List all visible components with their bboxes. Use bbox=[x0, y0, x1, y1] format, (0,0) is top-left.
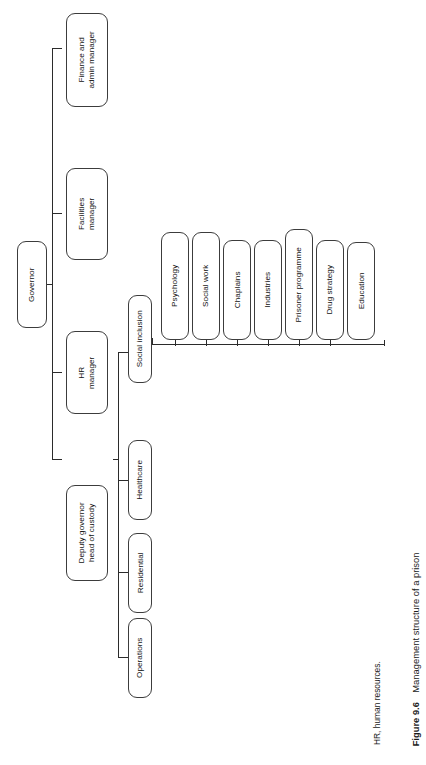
node-drug-strategy-label: Drug strategy bbox=[325, 265, 335, 315]
edge-si-drug-strategy bbox=[330, 340, 331, 346]
node-facilities-manager-label: Facilities manager bbox=[77, 198, 97, 231]
node-industries-label: Industries bbox=[263, 272, 273, 308]
edge-deputy-healthcare bbox=[118, 480, 128, 481]
node-finance-admin-manager-label: Finance and admin manager bbox=[77, 31, 97, 88]
edge-si-industries bbox=[268, 340, 269, 346]
node-operations-label: Operations bbox=[135, 638, 145, 678]
edge-governor-finance bbox=[52, 48, 62, 49]
node-governor-label: Governor bbox=[27, 267, 37, 301]
node-hr-manager-label: HR manager bbox=[77, 356, 97, 389]
edge-deputy-residential bbox=[118, 572, 128, 573]
edge-governor-facilities bbox=[52, 213, 62, 214]
node-residential-label: Residential bbox=[135, 553, 145, 594]
edge-si-education bbox=[384, 340, 385, 346]
node-drug-strategy[interactable]: Drug strategy bbox=[316, 240, 344, 340]
edge-governor-hr bbox=[52, 372, 62, 373]
node-governor[interactable]: Governor bbox=[17, 241, 47, 328]
edge-governor-deputy bbox=[52, 459, 62, 460]
node-chaplains[interactable]: Chaplains bbox=[223, 240, 251, 340]
node-education[interactable]: Education bbox=[347, 242, 375, 340]
node-social-inclusion[interactable]: Social inclusion bbox=[128, 295, 152, 383]
node-residential[interactable]: Residential bbox=[128, 533, 152, 613]
node-facilities-manager[interactable]: Facilities manager bbox=[66, 168, 108, 260]
node-healthcare-label: Healthcare bbox=[135, 460, 145, 500]
edge-deputy-operations bbox=[118, 657, 128, 658]
node-social-work[interactable]: Social work bbox=[192, 232, 220, 340]
edge-si-social-work bbox=[206, 340, 207, 346]
node-finance-admin-manager[interactable]: Finance and admin manager bbox=[66, 13, 108, 107]
node-social-work-label: Social work bbox=[201, 265, 211, 307]
figure-caption-title: Management structure of a prison bbox=[410, 553, 421, 693]
edge-si-psychology bbox=[175, 340, 176, 346]
figure-caption-number: Figure 9.6 bbox=[410, 693, 421, 747]
node-prisoner-programme-label: Prisoner programme bbox=[294, 247, 304, 322]
node-operations[interactable]: Operations bbox=[128, 618, 152, 698]
node-deputy-governor[interactable]: Deputy governor head of custody bbox=[66, 485, 108, 581]
node-education-label: Education bbox=[356, 273, 366, 310]
edge-si-prisoner-programme bbox=[299, 340, 300, 346]
node-psychology-label: Psychology bbox=[170, 265, 180, 307]
node-prisoner-programme[interactable]: Prisoner programme bbox=[285, 229, 313, 340]
node-hr-manager[interactable]: HR manager bbox=[66, 331, 108, 414]
node-healthcare[interactable]: Healthcare bbox=[128, 440, 152, 520]
edge-deputy-social-inclusion bbox=[118, 352, 128, 353]
edge-level2-trunk bbox=[52, 48, 53, 460]
node-psychology[interactable]: Psychology bbox=[161, 232, 189, 340]
figure-abbreviation-note: HR, human resources. bbox=[372, 661, 382, 745]
figure-caption: Figure 9.6 Management structure of a pri… bbox=[399, 553, 426, 763]
node-deputy-governor-label: Deputy governor head of custody bbox=[77, 502, 97, 563]
node-social-inclusion-label: Social inclusion bbox=[135, 310, 145, 367]
edge-level3-trunk bbox=[118, 352, 119, 657]
edge-si-chaplains bbox=[237, 340, 238, 346]
node-chaplains-label: Chaplains bbox=[232, 272, 242, 309]
node-industries[interactable]: Industries bbox=[254, 240, 282, 340]
